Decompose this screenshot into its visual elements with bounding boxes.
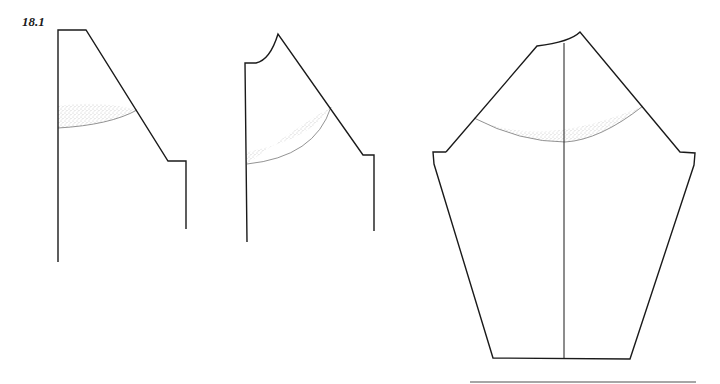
shaded-band [247,107,331,164]
front-bodice-piece [245,34,374,242]
piece-outline [245,34,374,242]
piece-outline [58,30,186,262]
back-bodice-piece [58,30,186,262]
pattern-diagram [0,0,720,384]
sleeve-piece [433,32,695,359]
